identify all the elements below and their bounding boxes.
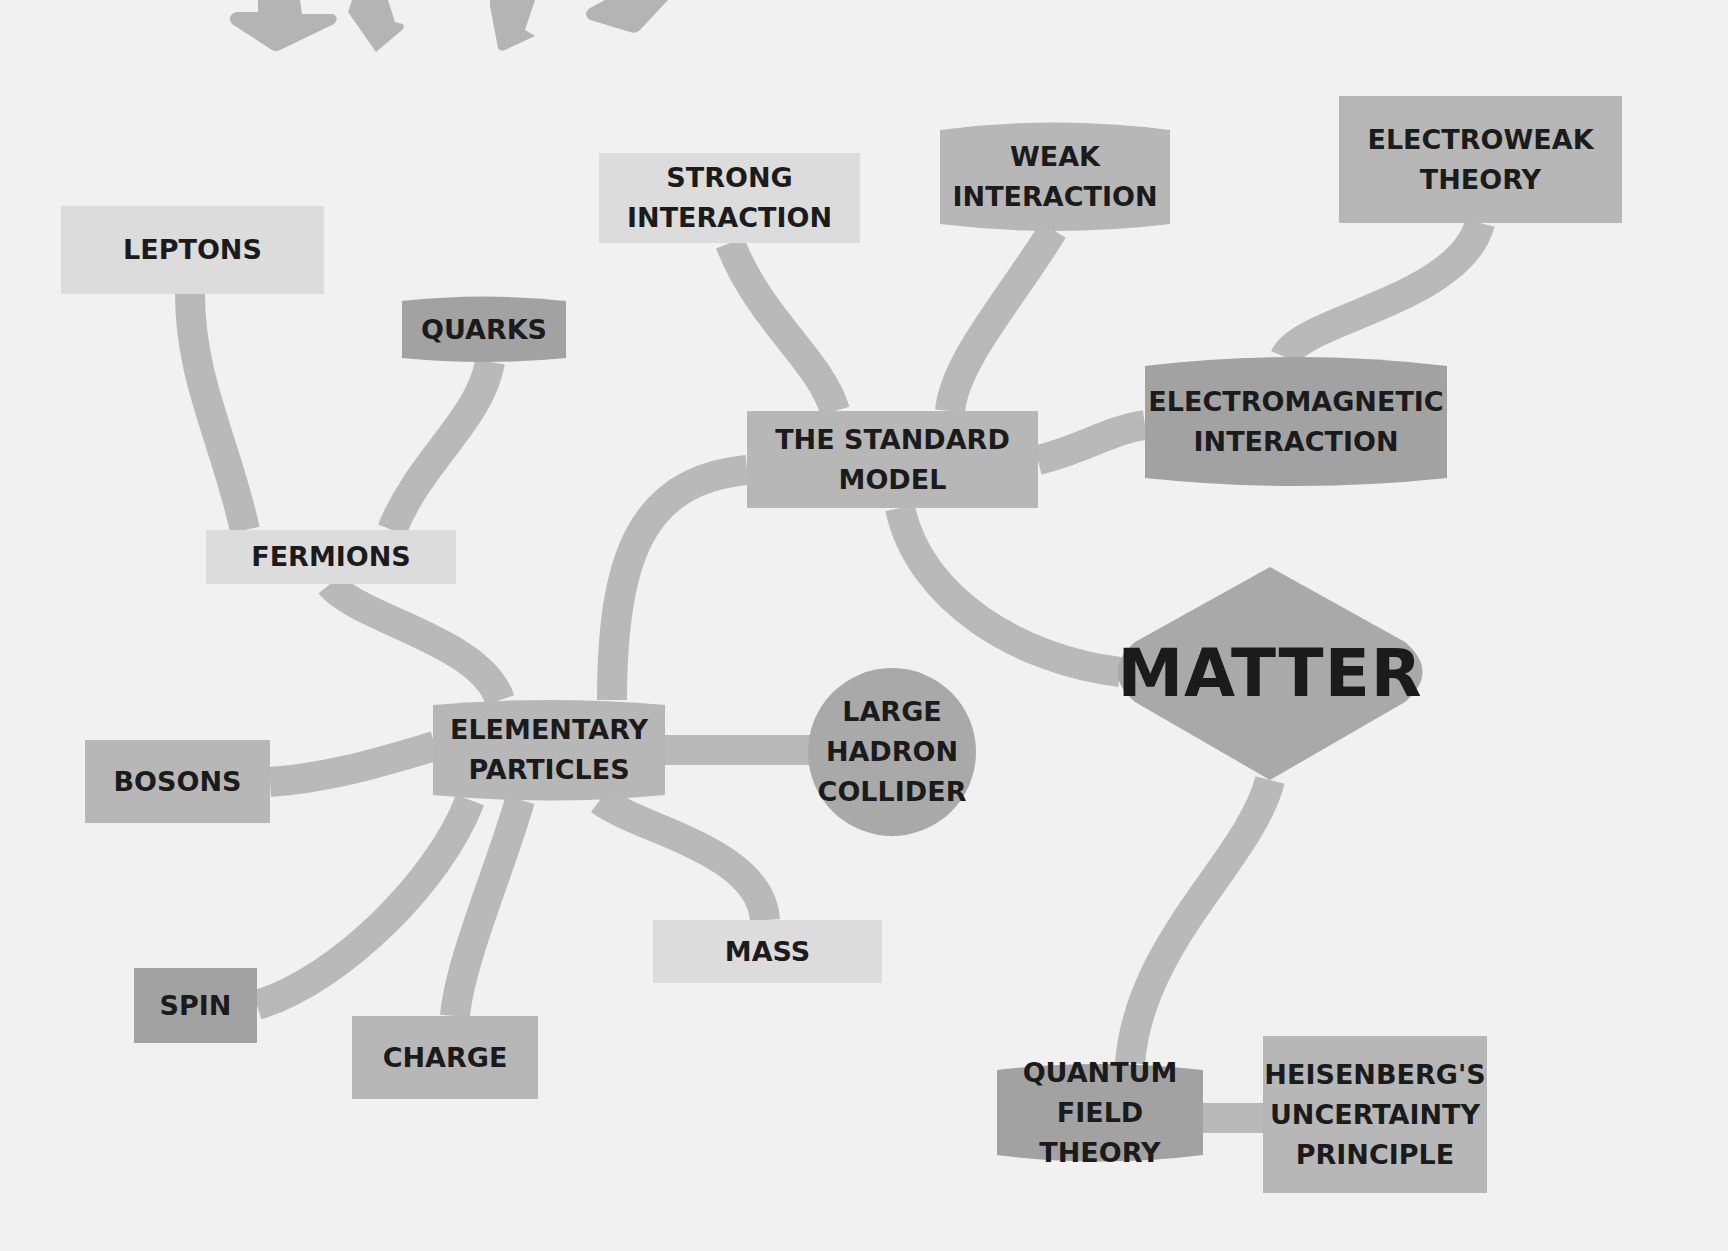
- node-mass[interactable]: MASS: [653, 920, 882, 983]
- node-large-hadron-collider[interactable]: LARGE HADRON COLLIDER: [808, 668, 976, 836]
- arrow-down-icon: [348, 0, 404, 52]
- connector-quarks-fermions: [392, 362, 490, 530]
- node-charge[interactable]: CHARGE: [352, 1016, 538, 1099]
- arrow-down-icon: [490, 0, 535, 51]
- connector-leptons-fermions: [190, 294, 245, 530]
- connector-elementary-bosons: [270, 746, 435, 782]
- node-weak-interaction[interactable]: WEAK INTERACTION: [940, 123, 1170, 230]
- arrow-down-icon: [586, 0, 668, 33]
- connector-elementary-standard: [612, 470, 747, 700]
- node-leptons[interactable]: LEPTONS: [61, 206, 324, 294]
- node-quarks[interactable]: QUARKS: [402, 297, 566, 362]
- connector-standard-matter: [900, 508, 1120, 672]
- node-matter[interactable]: MATTER: [1100, 567, 1440, 780]
- arrow-down-icon: [230, 0, 337, 51]
- node-quantum-field-theory[interactable]: QUANTUM FIELD THEORY: [997, 1063, 1203, 1162]
- connector-electroweak-em: [1285, 223, 1480, 357]
- connector-standard-em: [1038, 425, 1145, 460]
- node-fermions[interactable]: FERMIONS: [206, 530, 456, 584]
- connector-elementary-spin: [257, 800, 470, 1005]
- connector-elementary-mass: [600, 800, 765, 920]
- node-standard-model[interactable]: THE STANDARD MODEL: [747, 411, 1038, 508]
- node-electromagnetic-interaction[interactable]: ELECTROMAGNETIC INTERACTION: [1145, 357, 1447, 486]
- connector-strong-standard: [730, 243, 835, 411]
- node-heisenberg-uncertainty-principle[interactable]: HEISENBERG'S UNCERTAINTY PRINCIPLE: [1263, 1036, 1487, 1193]
- connector-weak-standard: [950, 230, 1053, 411]
- node-bosons[interactable]: BOSONS: [85, 740, 270, 823]
- node-elementary-particles[interactable]: ELEMENTARY PARTICLES: [433, 700, 665, 800]
- node-strong-interaction[interactable]: STRONG INTERACTION: [599, 153, 860, 243]
- node-electroweak-theory[interactable]: ELECTROWEAK THEORY: [1339, 96, 1622, 223]
- decorative-arrows: [230, 0, 668, 52]
- connector-fermions-elementary: [330, 584, 500, 700]
- connector-matter-qft: [1130, 780, 1270, 1063]
- node-spin[interactable]: SPIN: [134, 968, 257, 1043]
